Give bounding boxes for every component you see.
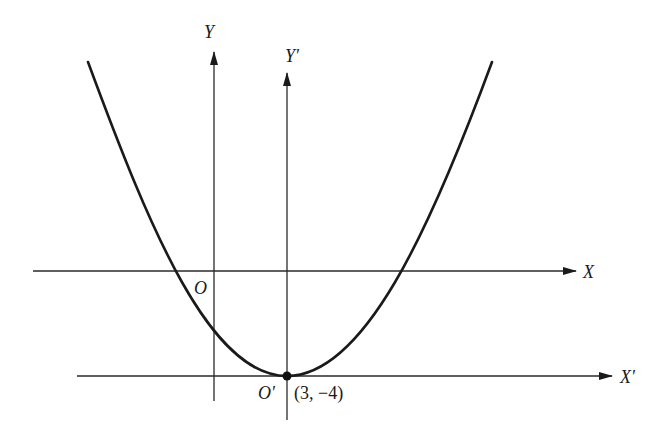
parabola-curve bbox=[88, 62, 492, 376]
x-axis-label: X bbox=[583, 263, 594, 281]
diagram-svg bbox=[0, 0, 672, 446]
y-prime-axis-label: Y′ bbox=[285, 47, 299, 65]
vertex-label: O′ bbox=[258, 384, 275, 402]
x-prime-axis-label: X′ bbox=[620, 368, 635, 386]
y-axis-label: Y bbox=[204, 23, 214, 41]
vertex-coordinates: (3, −4) bbox=[294, 384, 343, 402]
vertex-point bbox=[283, 372, 292, 381]
diagram-canvas: Y Y′ X X′ O O′ (3, −4) bbox=[0, 0, 672, 446]
origin-label: O bbox=[194, 279, 207, 297]
